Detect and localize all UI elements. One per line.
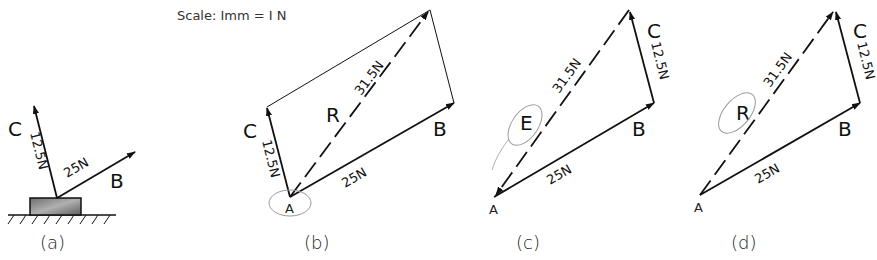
force-c-label: C (8, 117, 22, 141)
force-c-magnitude: 12.5N (259, 138, 283, 179)
force-diagrams: Scale: Imm = I N C 12.5N 25N B (a) (0, 0, 877, 260)
force-c-label: C (853, 19, 867, 43)
resultant-label: R (326, 103, 340, 127)
panel-c: 25N B C 12.5N E 31.5N A (c) (489, 10, 672, 253)
force-b-magnitude: 25N (339, 164, 369, 190)
ground-hatching (8, 215, 110, 224)
force-c-magnitude: 12.5N (27, 130, 51, 171)
point-a-label: A (489, 202, 498, 217)
caption-b: (b) (304, 232, 329, 253)
force-b-label: B (632, 117, 646, 141)
equilibrant-magnitude: 31.5N (549, 56, 584, 96)
equilibrant-label: E (520, 111, 533, 135)
construction-line-top (267, 10, 430, 107)
point-a-label: A (694, 200, 703, 215)
caption-c: (c) (516, 232, 540, 253)
panel-d: 25N B C 12.5N R 31.5N A (d) (694, 12, 877, 253)
force-b-label: B (110, 169, 124, 193)
force-c-label: C (647, 19, 661, 43)
force-c-label: C (243, 119, 257, 143)
point-a-label: A (285, 201, 294, 216)
scale-note: Scale: Imm = I N (177, 8, 287, 23)
force-b-arrow (290, 103, 454, 197)
panel-b: C 12.5N 25N B R 31.5N A (b) (243, 10, 454, 253)
force-c-magnitude: 12.5N (854, 40, 877, 81)
force-b-magnitude: 25N (752, 160, 782, 186)
construction-line-right (430, 10, 454, 103)
annotation-stroke (492, 140, 508, 170)
resultant-label: R (736, 101, 750, 125)
caption-d: (d) (731, 232, 756, 253)
panel-a: C 12.5N 25N B (a) (8, 106, 135, 253)
force-b-magnitude: 25N (61, 154, 91, 180)
force-b-label: B (433, 117, 447, 141)
force-b-arrow (700, 103, 860, 195)
force-b-label: B (838, 117, 852, 141)
force-b-arrow (494, 103, 654, 197)
block (30, 198, 81, 215)
force-c-magnitude: 12.5N (648, 40, 672, 81)
resultant-magnitude: 31.5N (760, 50, 795, 90)
caption-a: (a) (40, 232, 65, 253)
